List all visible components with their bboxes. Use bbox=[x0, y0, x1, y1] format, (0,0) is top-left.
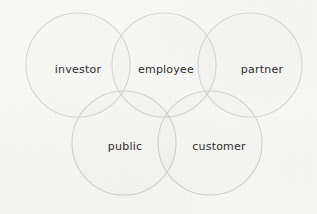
venn-label-investor: investor bbox=[55, 64, 101, 75]
venn-label-customer: customer bbox=[192, 141, 246, 152]
venn-label-partner: partner bbox=[241, 64, 283, 75]
venn-label-employee: employee bbox=[138, 64, 194, 75]
venn-label-public: public bbox=[108, 141, 142, 152]
venn-circles-group bbox=[0, 0, 317, 214]
venn-diagram: investor employee partner public custome… bbox=[0, 0, 317, 214]
